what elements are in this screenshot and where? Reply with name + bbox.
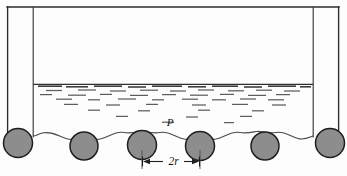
sphere <box>4 129 33 158</box>
liquid-surface-shading <box>38 86 311 87</box>
spacing-label: 2r <box>168 155 179 167</box>
sphere <box>316 129 345 158</box>
liquid-vessel-on-spheres-diagram: P 2r <box>0 0 347 176</box>
sphere <box>251 132 279 160</box>
figure-container: P 2r <box>0 0 347 176</box>
pressure-label: P <box>166 116 174 128</box>
sphere <box>70 132 98 160</box>
